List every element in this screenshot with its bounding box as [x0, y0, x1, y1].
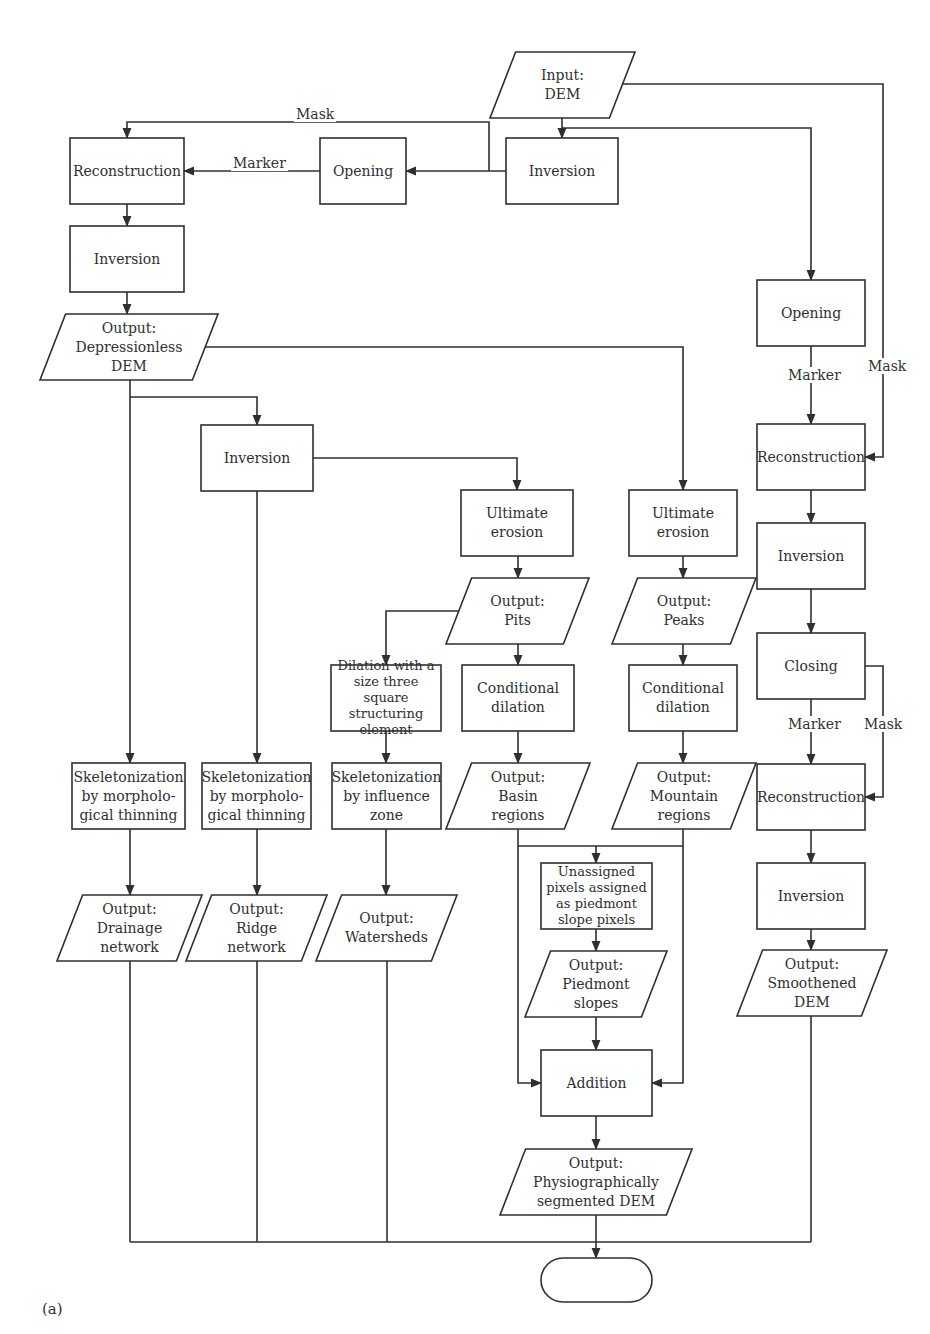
- node-reconstruction-left: Reconstruction: [70, 138, 184, 204]
- node-ultimate-erosion-peaks: Ultimate erosion: [629, 490, 737, 556]
- node-output-basin: Output: Basin regions: [446, 763, 590, 829]
- node-opening-right: Opening: [757, 280, 865, 346]
- node-conditional-dilation-basin: Conditional dilation: [462, 665, 574, 731]
- node-addition: Addition: [541, 1050, 652, 1116]
- node-output-segmented: Output: Physiographically segmented DEM: [500, 1149, 692, 1215]
- node-conditional-dilation-mountain: Conditional dilation: [629, 665, 737, 731]
- connector-inversion_mid-to-ultimate_erosion_pits: [313, 458, 517, 490]
- edge-label-mask-right1: Mask: [866, 358, 908, 374]
- node-output-ridge: Output: Ridge network: [186, 895, 327, 961]
- node-inversion-left: Inversion: [70, 226, 184, 292]
- node-ultimate-erosion-pits: Ultimate erosion: [461, 490, 573, 556]
- node-input-dem: Input: DEM: [490, 52, 635, 118]
- node-terminator: [541, 1258, 652, 1302]
- node-inversion-right2: Inversion: [757, 863, 865, 929]
- node-inversion-top: Inversion: [506, 138, 618, 204]
- node-opening-top: Opening: [320, 138, 406, 204]
- node-output-drainage: Output: Drainage network: [57, 895, 202, 961]
- connector-output_depressionless-to-inversion_mid: [130, 397, 257, 425]
- edge-label-marker-top: Marker: [231, 155, 288, 171]
- node-output-mountain: Output: Mountain regions: [612, 763, 756, 829]
- node-skeleton-influence: Skeletonization by influence zone: [332, 763, 441, 829]
- node-reconstruction-right2: Reconstruction: [757, 764, 865, 830]
- node-closing: Closing: [757, 633, 865, 699]
- node-output-peaks: Output: Peaks: [612, 578, 756, 644]
- node-output-watersheds: Output: Watersheds: [316, 895, 457, 961]
- node-inversion-mid: Inversion: [201, 425, 313, 491]
- edge-label-mask-top: Mask: [294, 106, 336, 122]
- node-output-smoothened: Output: Smoothened DEM: [737, 950, 887, 1016]
- edge-label-mask-right2: Mask: [862, 716, 904, 732]
- node-output-depressionless: Output: Depressionless DEM: [40, 314, 218, 380]
- node-skeleton-drainage: Skeletonization by morpholo- gical thinn…: [72, 763, 185, 829]
- node-inversion-right1: Inversion: [757, 523, 865, 589]
- node-output-pits: Output: Pits: [446, 578, 589, 644]
- connector-input_dem-to-reconstruction_right1: [619, 84, 883, 457]
- node-reconstruction-right1: Reconstruction: [757, 424, 865, 490]
- edge-label-marker-right1: Marker: [786, 367, 843, 383]
- node-output-piedmont: Output: Piedmont slopes: [525, 951, 667, 1017]
- edge-label-marker-right2: Marker: [786, 716, 843, 732]
- figure-label: (a): [42, 1300, 63, 1318]
- node-skeleton-ridge: Skeletonization by morpholo- gical thinn…: [202, 763, 311, 829]
- node-dilation-square: Dilation with a size three square struct…: [331, 665, 441, 731]
- flowchart-canvas: Input: DEMInversionOpeningReconstruction…: [0, 0, 930, 1334]
- node-unassigned-pixels: Unassigned pixels assigned as piedmont s…: [541, 863, 652, 929]
